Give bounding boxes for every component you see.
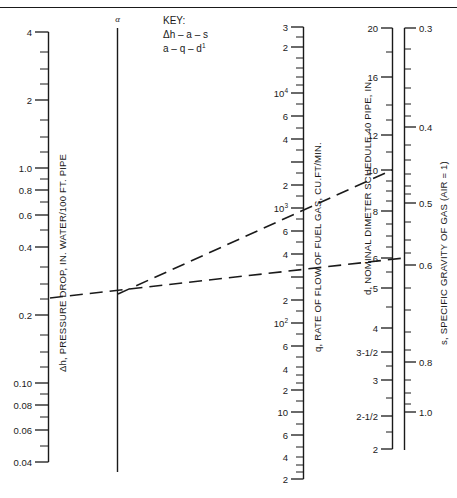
tick-label: 2	[283, 385, 288, 396]
pipe-diameter-minor-ticks	[386, 52, 393, 432]
flow-rate-major-ticks	[291, 27, 304, 479]
key-legend: KEY: Δh – a – s a – q – d1	[163, 15, 208, 54]
specific-gravity-axis: 0.3 0.4 0.5 0.6 0.8 1.0 s, SPECIFIC GRAV…	[405, 23, 450, 451]
tick-label: 6	[283, 111, 288, 122]
dh-alpha-s-line	[50, 258, 404, 298]
tick-label: 6	[283, 226, 288, 237]
specific-gravity-major-ticks	[405, 28, 417, 412]
tick-label: 1.0	[19, 163, 32, 174]
tick-label: 0.4	[419, 122, 432, 133]
key-title: KEY:	[163, 15, 185, 26]
tick-label: 0.3	[419, 23, 432, 34]
tick-label: 6	[283, 430, 288, 441]
tick-label: 0.8	[19, 185, 32, 196]
tick-label: 2-1/2	[356, 411, 378, 422]
tick-label: 4	[283, 364, 288, 375]
pipe-diameter-axis-label: d, NOMINAL DIMETER SCHEDULE 40 PIPE, IN.	[362, 79, 373, 295]
tick-label: 4	[373, 323, 378, 334]
tick-label: 0.6	[419, 260, 432, 271]
specific-gravity-minor-ticks	[405, 49, 412, 404]
tick-label: 103	[274, 202, 289, 214]
tick-label: 2	[27, 95, 32, 106]
tick-label: 0.06	[14, 425, 33, 436]
tick-label: 3	[373, 375, 378, 386]
tick-label: 0.4	[19, 242, 32, 253]
pressure-drop-minor-ticks	[40, 52, 49, 446]
tick-label: 2	[373, 444, 378, 455]
nomograph-figure: 4 2 1.0 0.8 0.6 0.4 0.2 0.10 0.08 0.06 0…	[0, 0, 457, 498]
pressure-drop-axis: 4 2 1.0 0.8 0.6 0.4 0.2 0.10 0.08 0.06 0…	[14, 27, 69, 468]
tick-label: 102	[274, 317, 289, 329]
tick-label: 0.08	[14, 400, 33, 411]
tick-label: 4	[27, 27, 32, 38]
tick-label: 1.0	[419, 407, 432, 418]
tick-label: 3	[283, 22, 288, 33]
specific-gravity-axis-label: s, SPECIFIC GRAVITY OF GAS (AIR = 1)	[438, 161, 449, 345]
tick-label: 6	[283, 341, 288, 352]
tick-label: 4	[283, 249, 288, 260]
flow-rate-axis-label: q, RATE OF FLOW OF FUEL GAS, CU.FT/MIN.	[312, 142, 323, 352]
tick-label: 5	[373, 283, 378, 294]
construction-lines	[50, 170, 404, 298]
pressure-drop-major-ticks	[35, 32, 49, 462]
tick-label: 20	[367, 23, 378, 34]
tick-label: 0.04	[14, 457, 33, 468]
tick-label: 0.2	[19, 310, 32, 321]
tick-label: 10	[277, 407, 288, 418]
pipe-diameter-axis: 20 16 12 10 8 6 5 4 3-1/2 3 2-1/2 2 d, N…	[356, 23, 392, 455]
tick-label: 8	[373, 206, 378, 217]
flow-rate-axis: 3 2 104 6 4 2 103 6 4 2 102 6 4 2 10 6 4…	[274, 22, 323, 485]
tick-label: 4	[283, 134, 288, 145]
pressure-drop-axis-label: Δh, PRESSURE DROP, IN. WATER/100 FT. PIP…	[57, 154, 68, 372]
tick-label: 2	[283, 295, 288, 306]
alpha-pivot-line: α	[115, 14, 120, 472]
tick-label: 0.10	[14, 378, 33, 389]
tick-label: 2	[283, 474, 288, 485]
key-line-2: a – q – d1	[163, 42, 206, 54]
tick-label: 3-1/2	[356, 347, 378, 358]
alpha-label: α	[115, 14, 120, 24]
tick-label: 2	[283, 42, 288, 53]
tick-label: 2	[283, 180, 288, 191]
tick-label: 0.8	[419, 357, 432, 368]
pipe-diameter-major-ticks	[381, 28, 393, 449]
tick-label: 4	[283, 452, 288, 463]
tick-label: 0.6	[19, 210, 32, 221]
tick-label: 0.5	[419, 198, 432, 209]
tick-label: 104	[274, 87, 289, 99]
key-line-1: Δh – a – s	[163, 29, 208, 40]
